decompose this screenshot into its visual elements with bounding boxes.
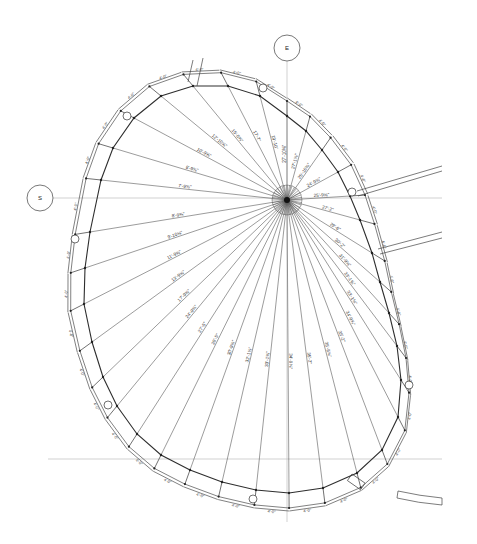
joint-node xyxy=(373,223,375,225)
wall-joint-tick xyxy=(360,220,374,224)
wall-joint-tick xyxy=(86,178,101,180)
segment-dimension-label: 4'-0" xyxy=(406,411,412,420)
segment-dimension-label: 4'-0" xyxy=(92,402,100,412)
joint-node xyxy=(160,95,162,97)
beam-line xyxy=(197,58,203,86)
wall-joint-tick xyxy=(185,470,190,484)
radial-dimension-label: 12'-10⅝" xyxy=(211,133,228,149)
joint-node xyxy=(128,446,130,448)
wall-joint-tick xyxy=(80,342,92,351)
wall-joint-tick xyxy=(92,377,103,387)
joint-node xyxy=(83,303,85,305)
wall-joint-tick xyxy=(71,268,85,273)
segment-dimension-label: 4'-0" xyxy=(339,496,349,504)
radial-dimension-line xyxy=(90,200,287,232)
wall-joint-tick xyxy=(306,117,310,131)
wall-joint-tick xyxy=(323,488,325,503)
radial-dimension-line xyxy=(113,148,287,200)
radial-dimension-label: 9'-10⅝" xyxy=(167,230,184,240)
joint-node xyxy=(91,386,93,388)
radial-dimension-line xyxy=(287,200,323,488)
radial-dimension-label: 17'-9⅝" xyxy=(177,288,192,303)
joint-node xyxy=(309,115,311,117)
joint-node xyxy=(79,350,81,352)
segment-dimension-label: 4'-0" xyxy=(402,341,409,350)
columns xyxy=(71,84,413,503)
joint-node xyxy=(324,502,326,504)
radial-dimension-line xyxy=(287,200,382,450)
wall-joint-tick xyxy=(75,232,90,234)
joint-node xyxy=(396,345,398,347)
segment-dimension-label: 4'-0" xyxy=(84,155,92,165)
wall-joint-tick xyxy=(382,450,387,464)
column-marker xyxy=(104,401,112,409)
joint-node xyxy=(321,149,323,151)
beam-line xyxy=(357,166,442,191)
joint-node xyxy=(84,267,86,269)
joint-node xyxy=(133,117,135,119)
joint-node xyxy=(405,357,407,359)
radial-dimension-line xyxy=(287,200,397,346)
beam-line xyxy=(358,171,442,196)
radial-plan-drawing: 27'-10⅜"27'-1⅝"25'-10⅜"24'-9⅝"25'-9⅝"27'… xyxy=(0,0,477,544)
drawing-canvas: 27'-10⅜"27'-1⅝"25'-10⅜"24'-9⅝"25'-9⅝"27'… xyxy=(0,0,477,544)
joint-node xyxy=(337,171,339,173)
segment-dimension-label: 4'-0" xyxy=(196,491,206,499)
joint-node xyxy=(381,449,383,451)
column-marker xyxy=(71,235,79,243)
joint-node xyxy=(148,85,150,87)
grid-bubble-label: E xyxy=(285,45,289,51)
joint-node xyxy=(330,137,332,139)
joint-node xyxy=(255,80,257,82)
radial-dimension-label: 34'-9⅝" xyxy=(288,353,293,369)
wall-joint-tick xyxy=(154,455,161,468)
radial-dimension-label: 25'-9⅝" xyxy=(314,192,330,198)
radial-dimension-label: 33'-1⅜" xyxy=(343,271,357,287)
joint-node xyxy=(184,483,186,485)
wall-joint-tick xyxy=(129,434,137,447)
segment-dimension-label: 4'-0" xyxy=(266,82,276,91)
radial-dimension-label: 8'-9⅝" xyxy=(171,211,185,218)
joint-node xyxy=(102,376,104,378)
wall-joint-tick xyxy=(398,417,405,430)
joint-node xyxy=(350,164,352,166)
joint-node xyxy=(408,392,410,394)
joint-node xyxy=(255,489,257,491)
segment-dimension-label: 4'-0" xyxy=(163,477,173,485)
joint-node xyxy=(259,95,261,97)
joint-node xyxy=(379,281,381,283)
joint-node xyxy=(386,463,388,465)
joint-node xyxy=(182,73,184,75)
adjacent-wall-arc xyxy=(397,491,442,505)
segment-dimension-label: 4'-0" xyxy=(195,67,204,72)
segment-dimension-label: 4'-0" xyxy=(395,307,402,316)
joint-node xyxy=(253,504,255,506)
joint-node xyxy=(89,231,91,233)
radial-dimension-line xyxy=(84,200,287,304)
wall-joint-tick xyxy=(219,482,222,497)
radial-dimension-line xyxy=(92,200,287,342)
joint-node xyxy=(390,291,392,293)
wall-joint-tick xyxy=(71,304,84,311)
joint-node xyxy=(388,312,390,314)
joint-node xyxy=(70,272,72,274)
joint-node xyxy=(136,433,138,435)
joint-node xyxy=(112,147,114,149)
segment-dimension-label: 4'-0" xyxy=(64,289,69,298)
joint-node xyxy=(359,219,361,221)
grid-bubbles: ES xyxy=(27,35,300,211)
wall-joint-tick xyxy=(322,138,331,150)
radial-dimension-label: 25'-10⅜" xyxy=(297,162,312,180)
radial-dimension-line xyxy=(85,200,287,268)
joint-node xyxy=(288,507,290,509)
joint-node xyxy=(91,341,93,343)
segment-dimension-label: 4'-0" xyxy=(158,73,168,81)
radial-dimension-line xyxy=(134,118,287,200)
column-marker xyxy=(348,188,356,196)
joint-node xyxy=(218,496,220,498)
radial-dimension-line xyxy=(137,200,287,434)
radial-dimension-label: 13'-9⅝" xyxy=(170,269,186,282)
radial-dimension-label: 31'-9⅝" xyxy=(338,253,352,268)
radial-dimension-line xyxy=(287,200,357,473)
radial-dimension-line xyxy=(101,180,287,200)
